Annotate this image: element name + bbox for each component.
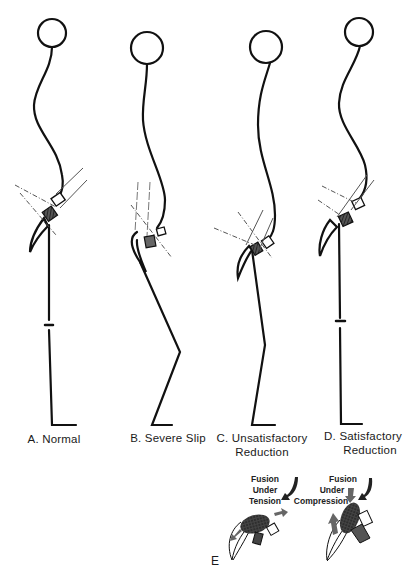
spine-curve bbox=[339, 46, 366, 198]
panel-e-label: E bbox=[211, 554, 219, 568]
spine-curve bbox=[258, 63, 275, 240]
head-circle bbox=[345, 18, 373, 46]
leg-line bbox=[339, 224, 362, 424]
arrow-right-icon bbox=[274, 508, 288, 517]
head-circle bbox=[250, 31, 282, 63]
compression-label-line1: Fusion bbox=[313, 474, 373, 484]
spine-curve bbox=[34, 47, 63, 195]
panel-d-label-line2: Reduction bbox=[320, 443, 414, 457]
spine-curve bbox=[143, 64, 165, 228]
panel-a-label: A. Normal bbox=[14, 432, 94, 446]
panel-c-label-line2: Reduction bbox=[212, 445, 312, 459]
panel-b-severe-slip-figure bbox=[131, 32, 180, 425]
compression-label-line2: Under bbox=[307, 485, 357, 495]
panel-c-unsatisfactory-figure bbox=[237, 31, 282, 425]
tension-label-line3: Tension bbox=[240, 496, 290, 506]
tension-label-line1: Fusion bbox=[240, 474, 290, 484]
tension-label-line2: Under bbox=[240, 485, 290, 495]
leg-line bbox=[252, 250, 275, 425]
leg-line bbox=[140, 262, 180, 425]
compression-label-line3: Compression bbox=[290, 496, 352, 506]
panel-d-label-line1: D. Satisfactory bbox=[312, 429, 414, 443]
head-circle bbox=[38, 19, 66, 47]
panel-a-normal-figure bbox=[30, 19, 76, 425]
panel-b-label: B. Severe Slip bbox=[118, 431, 218, 445]
panel-a-hip-detail bbox=[15, 168, 87, 235]
head-circle bbox=[131, 32, 163, 64]
panel-c-label-line1: C. Unsatisfactory bbox=[212, 431, 312, 445]
